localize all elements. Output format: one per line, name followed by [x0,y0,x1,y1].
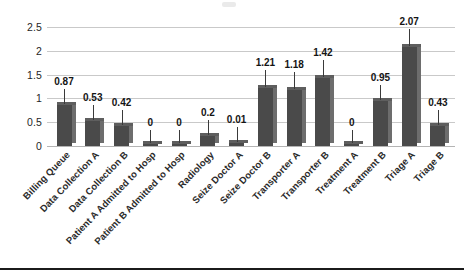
x-tick: Patient A Admitted to Hosp [137,147,163,267]
bar-value-label: 0 [176,117,182,128]
bar-column: 2.07 [402,47,417,146]
bar-value-label: 0.2 [201,107,215,118]
bar-top-face [57,102,76,105]
bar-value-label: 0.95 [371,72,390,83]
bar-front-face [143,144,158,146]
bar-front-face [57,105,72,146]
bar-top-face [344,141,363,144]
bar-value-label: 0 [148,117,154,128]
bar-value-label: 0.43 [428,97,447,108]
bar-front-face [344,144,359,146]
bar-column: 0.42 [114,126,129,146]
label-leader-line [294,72,295,89]
bar-side-face [388,98,392,143]
x-tick: Treatment B [367,147,393,267]
bar-front-face [172,144,187,146]
scan-artifact [222,2,236,7]
y-axis: 00.511.522.5 [0,27,42,146]
bar-top-face [430,123,449,126]
label-leader-line [122,110,123,125]
bar-item: 0.01 [224,27,250,146]
y-tick-label: 1.5 [2,69,42,81]
label-leader-line [93,105,94,120]
label-leader-line [150,130,151,143]
bar-item: 0 [339,27,365,146]
bar-front-face [229,143,244,146]
bar-top-face [258,85,277,88]
bar-item: 0.87 [51,27,77,146]
bar-column: 0.2 [200,136,215,146]
bar-front-face [402,47,417,146]
y-tick-label: 1 [2,92,42,104]
bar-top-face [402,44,421,47]
bar-item: 0.53 [80,27,106,146]
bar-top-face [373,98,392,101]
x-tick: Transporter A [281,147,307,267]
bar-top-face [172,141,191,144]
bar-top-face [114,123,133,126]
x-tick: Seize Doctor B [252,147,278,267]
bar-side-face [330,75,334,143]
bar-front-face [430,126,445,146]
bar-item: 0.43 [425,27,451,146]
bar-value-label: 0 [349,117,355,128]
x-tick: Transporter B [310,147,336,267]
bar-item: 0.95 [367,27,393,146]
bar-side-face [72,102,76,143]
bar-side-face [302,87,306,143]
bar-front-face [85,121,100,146]
bar-column: 1.21 [258,88,273,146]
bar-front-face [373,101,388,146]
bar-value-label: 1.42 [313,47,332,58]
y-tick-label: 0.5 [2,116,42,128]
plot-area: 0.870.530.42000.20.011.211.181.4200.952.… [47,27,455,146]
bar-column: 0 [344,144,359,146]
label-leader-line [237,127,238,142]
label-leader-line [409,29,410,46]
x-tick: Seize Doctor A [224,147,250,267]
x-axis-labels: Billing QueueData Collection AData Colle… [47,147,455,267]
bar-column: 0.43 [430,126,445,146]
label-leader-line [438,110,439,125]
bar-value-label: 1.18 [284,59,303,70]
bar-top-face [200,133,219,136]
bar-top-face [143,141,162,144]
x-tick: Triage A [396,147,422,267]
bar-front-face [258,88,273,146]
bar-value-label: 0.87 [54,76,73,87]
bar-front-face [287,90,302,146]
bar-item: 0 [137,27,163,146]
bar-item: 1.18 [281,27,307,146]
bar-value-label: 0.42 [112,97,131,108]
bar-side-face [273,85,277,143]
bar-front-face [315,78,330,146]
bar-column: 0.95 [373,101,388,146]
x-tick: Patient B Admitted to Hosp [166,147,192,267]
bar-series: 0.870.530.42000.20.011.211.181.4200.952.… [47,27,455,146]
label-leader-line [208,120,209,135]
bar-value-label: 0.01 [227,114,246,125]
y-tick-label: 2.5 [2,21,42,33]
bar-chart: 00.511.522.5 0.870.530.42000.20.011.211.… [0,0,464,278]
bar-side-face [417,44,421,143]
bar-item: 0.2 [195,27,221,146]
bar-top-face [315,75,334,78]
bar-item: 0.42 [109,27,135,146]
bar-column: 0 [143,144,158,146]
bar-side-face [100,118,104,143]
bar-item: 1.42 [310,27,336,146]
bar-front-face [200,136,215,146]
bottom-divider [0,268,464,270]
bar-value-label: 0.53 [83,92,102,103]
bar-value-label: 1.21 [256,57,275,68]
bar-value-label: 2.07 [399,16,418,27]
bar-side-face [445,123,449,143]
bar-item: 1.21 [252,27,278,146]
bar-column: 0.87 [57,105,72,146]
bar-top-face [85,118,104,121]
label-leader-line [352,130,353,143]
bar-column: 0.01 [229,143,244,146]
bar-column: 1.42 [315,78,330,146]
bar-column: 0.53 [85,121,100,146]
bar-column: 0 [172,144,187,146]
